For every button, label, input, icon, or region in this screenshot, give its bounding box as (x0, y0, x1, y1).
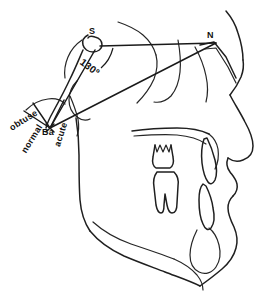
cranial-vault-outline (226, 11, 243, 60)
mandible-inner-border (93, 222, 174, 259)
frontal-bone-outline (230, 60, 243, 95)
cephalometric-tracing (0, 0, 273, 297)
mandible-lower-border (90, 231, 200, 286)
upper-incisor (202, 138, 217, 184)
label-basion: Ba (42, 128, 54, 137)
palatal-plane (132, 128, 209, 134)
label-nasion: N (207, 31, 214, 40)
sella-turcica (83, 35, 102, 52)
nasion-bone-detail-inner (205, 48, 236, 83)
label-sella: S (89, 27, 95, 36)
maxillary-tuberosity (209, 134, 218, 169)
cephalometric-figure: S N 130º obtuse Ba normal acute (0, 0, 273, 297)
upper-molar-cusps (155, 145, 171, 152)
lower-lip-chin-profile (200, 196, 237, 286)
upper-lip-profile (227, 158, 237, 196)
orbital-rim (154, 40, 180, 102)
lower-incisor (199, 184, 214, 229)
alveolar-process (190, 228, 220, 273)
nose-profile (228, 95, 253, 161)
anterior-cranial-base (118, 22, 156, 55)
angle-arc-sella (101, 48, 113, 68)
lower-molar-tooth (154, 172, 179, 213)
zygomatic-arch (195, 47, 208, 102)
hard-palate-lower (134, 135, 206, 144)
ramus-posterior-border (76, 118, 90, 231)
reference-line-sn (100, 43, 216, 46)
